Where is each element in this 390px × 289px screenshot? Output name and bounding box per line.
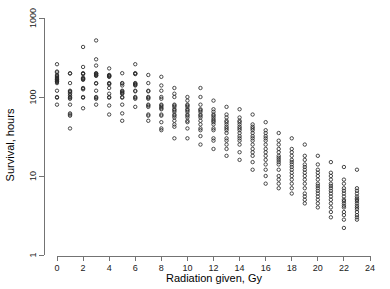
data-point bbox=[212, 147, 215, 150]
y-axis: 1101001000 bbox=[28, 8, 44, 258]
data-point bbox=[316, 178, 319, 181]
data-point bbox=[173, 86, 176, 89]
data-point bbox=[238, 143, 241, 146]
data-point bbox=[94, 58, 97, 61]
data-points bbox=[55, 39, 358, 230]
data-point bbox=[68, 103, 71, 106]
x-tick-label-22: 22 bbox=[339, 263, 349, 273]
data-point bbox=[251, 143, 254, 146]
x-tick-label-4: 4 bbox=[107, 263, 112, 273]
x-axis-title: Radiation given, Gy bbox=[166, 272, 262, 284]
x-tick-label-18: 18 bbox=[287, 263, 297, 273]
data-point bbox=[277, 168, 280, 171]
data-point bbox=[329, 210, 332, 213]
data-point bbox=[81, 65, 84, 68]
data-point bbox=[329, 216, 332, 219]
data-point bbox=[277, 178, 280, 181]
data-point bbox=[264, 182, 267, 185]
data-point bbox=[68, 127, 71, 130]
data-point bbox=[329, 202, 332, 205]
plot-canvas: 1101001000 024681012141618202224 Surviva… bbox=[0, 0, 390, 289]
data-point bbox=[342, 165, 345, 168]
data-point bbox=[342, 182, 345, 185]
data-point bbox=[186, 127, 189, 130]
data-point bbox=[355, 168, 358, 171]
data-point bbox=[316, 154, 319, 157]
data-point bbox=[186, 95, 189, 98]
data-point bbox=[290, 192, 293, 195]
data-point bbox=[303, 178, 306, 181]
x-tick-label-0: 0 bbox=[54, 263, 59, 273]
data-point bbox=[264, 174, 267, 177]
data-point bbox=[264, 120, 267, 123]
data-point bbox=[160, 75, 163, 78]
data-point bbox=[277, 163, 280, 166]
data-point bbox=[199, 95, 202, 98]
data-point bbox=[225, 143, 228, 146]
data-point bbox=[199, 123, 202, 126]
data-point bbox=[121, 119, 124, 122]
data-point bbox=[121, 103, 124, 106]
x-tick-label-8: 8 bbox=[159, 263, 164, 273]
data-point bbox=[329, 178, 332, 181]
data-point bbox=[238, 151, 241, 154]
y-tick-label-100: 100 bbox=[28, 89, 38, 104]
data-point bbox=[342, 226, 345, 229]
data-point bbox=[173, 125, 176, 128]
data-point bbox=[147, 119, 150, 122]
data-point bbox=[264, 163, 267, 166]
data-point bbox=[225, 105, 228, 108]
data-point bbox=[238, 108, 241, 111]
data-point bbox=[251, 168, 254, 171]
data-point bbox=[199, 103, 202, 106]
data-point bbox=[329, 160, 332, 163]
data-point bbox=[225, 147, 228, 150]
data-point bbox=[160, 84, 163, 87]
data-point bbox=[264, 139, 267, 142]
data-point bbox=[342, 218, 345, 221]
data-point bbox=[107, 86, 110, 89]
x-axis: 024681012141618202224 bbox=[54, 256, 375, 273]
data-point bbox=[121, 112, 124, 115]
data-point bbox=[264, 154, 267, 157]
data-point bbox=[290, 154, 293, 157]
data-point bbox=[225, 154, 228, 157]
data-point bbox=[160, 120, 163, 123]
x-tick-label-6: 6 bbox=[133, 263, 138, 273]
x-tick-label-16: 16 bbox=[261, 263, 271, 273]
data-point bbox=[303, 158, 306, 161]
data-point bbox=[55, 89, 58, 92]
data-point bbox=[107, 104, 110, 107]
x-tick-label-20: 20 bbox=[313, 263, 323, 273]
data-point bbox=[277, 139, 280, 142]
data-point bbox=[186, 137, 189, 140]
data-point bbox=[264, 143, 267, 146]
x-tick-label-24: 24 bbox=[365, 263, 375, 273]
data-point bbox=[199, 143, 202, 146]
data-point bbox=[147, 81, 150, 84]
data-point bbox=[121, 72, 124, 75]
data-point bbox=[277, 131, 280, 134]
data-point bbox=[290, 182, 293, 185]
data-point bbox=[212, 139, 215, 142]
data-point bbox=[316, 202, 319, 205]
data-point bbox=[277, 182, 280, 185]
data-point bbox=[81, 107, 84, 110]
data-point bbox=[134, 63, 137, 66]
data-point bbox=[134, 105, 137, 108]
data-point bbox=[251, 139, 254, 142]
scatter-plot-figure: 1101001000 024681012141618202224 Surviva… bbox=[0, 0, 390, 289]
data-point bbox=[68, 81, 71, 84]
data-point bbox=[342, 178, 345, 181]
data-point bbox=[329, 206, 332, 209]
data-point bbox=[107, 67, 110, 70]
data-point bbox=[94, 89, 97, 92]
data-point bbox=[277, 143, 280, 146]
data-point bbox=[55, 103, 58, 106]
data-point bbox=[277, 174, 280, 177]
data-point bbox=[303, 143, 306, 146]
data-point bbox=[173, 137, 176, 140]
data-point bbox=[94, 39, 97, 42]
data-point bbox=[303, 182, 306, 185]
data-point bbox=[199, 86, 202, 89]
